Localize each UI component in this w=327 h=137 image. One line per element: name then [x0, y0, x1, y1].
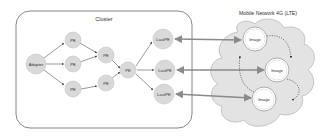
pe-node-2[interactable]: PE: [65, 56, 81, 72]
pe-node-6[interactable]: PE: [120, 62, 136, 78]
image-node-3[interactable]: Image: [252, 87, 276, 111]
pe-label: PE: [103, 53, 109, 58]
image-label: Image: [271, 68, 283, 73]
image-label: Image: [258, 97, 270, 102]
lastpe-label: LastPE: [157, 92, 171, 97]
network-title: Mobile Network 4G (LTE): [239, 10, 297, 16]
adapter-node[interactable]: Adapter: [26, 54, 46, 74]
lastpe-label: LastPE: [158, 68, 172, 73]
lastpe-label: LastPE: [156, 37, 170, 42]
lastpe-node-1[interactable]: LastPE: [153, 29, 173, 49]
pe-label: PE: [103, 81, 109, 86]
pe-label: PE: [70, 87, 76, 92]
image-label: Image: [249, 37, 261, 42]
pe-label: PE: [70, 62, 76, 67]
pe-label: PE: [125, 68, 131, 73]
image-node-1[interactable]: Image: [243, 27, 267, 51]
cluster-title: Cluster: [95, 16, 113, 22]
lastpe-node-3[interactable]: LastPE: [154, 84, 174, 104]
pe-label: PE: [70, 38, 76, 43]
diagram-canvas: Cluster Mobile Network 4G (LTE) Adapter: [0, 0, 327, 137]
adapter-label: Adapter: [29, 62, 44, 67]
pe-node-1[interactable]: PE: [65, 32, 81, 48]
lastpe-node-2[interactable]: LastPE: [155, 60, 175, 80]
link-lastpe1-image1: [175, 39, 241, 40]
pe-node-5[interactable]: PE: [98, 75, 114, 91]
pe-node-4[interactable]: PE: [98, 47, 114, 63]
image-node-2[interactable]: Image: [265, 58, 289, 82]
pe-node-3[interactable]: PE: [65, 81, 81, 97]
